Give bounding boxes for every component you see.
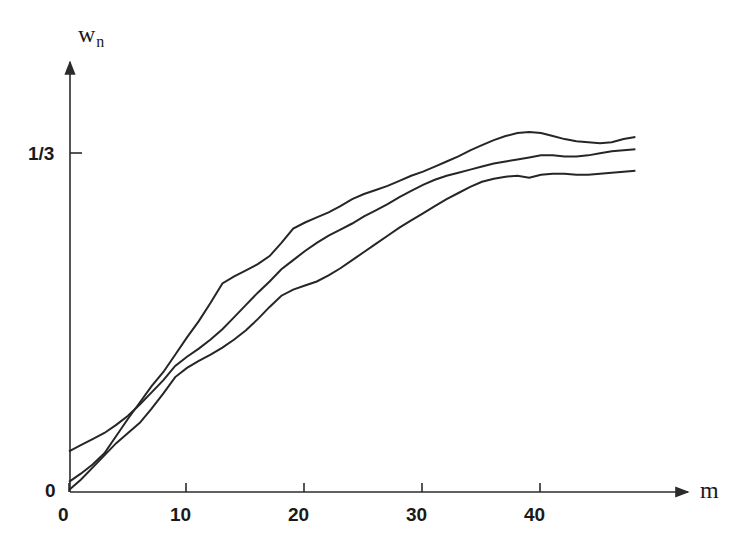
plot-canvas [0,0,735,551]
y-axis-label-base: w [78,21,95,47]
x-tick-label-0: 0 [58,505,69,524]
data-curves [69,132,635,490]
y-origin-label: 0 [45,481,56,500]
x-axis-label: m [700,478,719,502]
x-tick-label-20: 20 [288,505,309,524]
y-tick-label-one-third: 1/3 [28,144,54,163]
x-tick-label-30: 30 [406,505,427,524]
y-axis-label-subscript: n [95,33,104,50]
x-tick-label-40: 40 [524,505,545,524]
curve-lower [69,171,635,490]
chart-figure: wn m 1/3 0 0 10 20 30 40 [0,0,735,551]
x-tick-label-10: 10 [170,505,191,524]
y-axis-label: wn [78,22,104,50]
curve-upper [69,132,635,482]
